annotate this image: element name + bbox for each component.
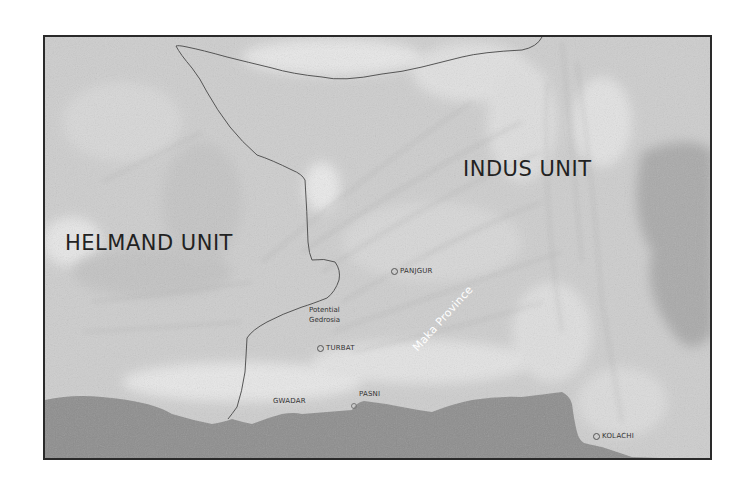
city-marker-icon [391,268,398,275]
city-panjgur: PANJGUR [391,267,433,275]
potential-gedrosia-label: Potential Gedrosia [309,305,340,325]
helmand-unit-label: HELMAND UNIT [65,231,233,255]
city-label: TURBAT [326,344,355,352]
city-pasni: PASNI [359,390,380,398]
city-label: GWADAR [273,397,306,405]
city-label: PASNI [359,390,380,398]
pasni-marker-icon [351,403,357,409]
city-marker-icon [317,345,324,352]
region-note-line1: Potential [309,305,340,315]
map-frame: HELMAND UNIT INDUS UNIT Potential Gedros… [43,35,712,460]
city-label: KOLACHI [602,432,634,440]
city-label: PANJGUR [400,267,433,275]
city-turbat: TURBAT [317,344,355,352]
city-gwadar: GWADAR [273,397,306,405]
city-kolachi: KOLACHI [593,432,634,440]
indus-unit-label: INDUS UNIT [463,157,592,181]
city-marker-icon [593,433,600,440]
region-note-line2: Gedrosia [309,315,340,325]
